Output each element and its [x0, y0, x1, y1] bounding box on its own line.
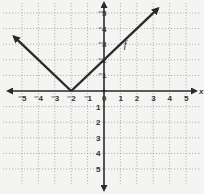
x-axis-label: x	[198, 87, 204, 96]
coordinate-plane: x ⁻5⁻4⁻3⁻2⁻101234554321⁻1⁻2⁻3⁻4⁻5 f	[0, 0, 204, 194]
x-tick-label: ⁻1	[84, 94, 93, 103]
x-tick-label: ⁻5	[18, 94, 27, 103]
x-tick-label: 4	[168, 94, 173, 103]
y-tick-label: 5	[96, 165, 101, 174]
y-tick-label: ⁻4	[98, 25, 107, 34]
x-tick-label: 3	[151, 94, 156, 103]
y-tick-label: 4	[96, 149, 101, 158]
y-tick-label: ⁻3	[98, 40, 107, 49]
function-right-ray	[71, 8, 158, 91]
x-tick-label: 0	[102, 94, 107, 103]
function-label: f	[124, 39, 128, 50]
x-tick-label: 2	[135, 94, 140, 103]
x-tick-label: 5	[184, 94, 189, 103]
x-tick-label: ⁻4	[34, 94, 43, 103]
function-left-ray	[14, 36, 71, 91]
y-tick-label: ⁻1	[98, 71, 107, 80]
x-tick-label: 1	[118, 94, 123, 103]
x-tick-label: ⁻2	[67, 94, 76, 103]
y-tick-label: 1	[96, 103, 101, 112]
y-tick-label: 3	[96, 134, 101, 143]
x-tick-label: ⁻3	[51, 94, 60, 103]
y-tick-label: ⁻5	[98, 9, 107, 18]
y-tick-label: 2	[96, 118, 101, 127]
